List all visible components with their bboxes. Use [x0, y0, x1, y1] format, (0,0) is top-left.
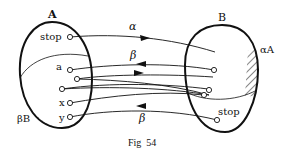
region-label-beta-b: βB — [17, 113, 30, 124]
arrow-beta-bottom-icon — [136, 103, 146, 109]
arrow-label-beta-top: β — [129, 49, 136, 62]
point-a-stop — [67, 34, 72, 39]
arrow-label-beta-bottom: β — [138, 112, 145, 125]
mapping-lines — [62, 36, 217, 120]
figure-caption: Fig 54 — [128, 137, 156, 148]
point-b-1 — [211, 67, 216, 72]
point-b-2 — [206, 87, 211, 92]
point-label-x: x — [59, 97, 65, 108]
region-label-alpha-a: αA — [260, 44, 275, 55]
point-a-x — [67, 100, 72, 105]
point-label-a-stop: stop — [40, 31, 62, 42]
arrow-label-alpha: α — [129, 20, 137, 33]
set-a-inner-curve — [20, 54, 88, 78]
point-label-a: a — [56, 61, 62, 72]
point-a-unlabeled-1 — [74, 76, 79, 81]
point-label-b-stop: stop — [218, 106, 240, 117]
point-label-y: y — [58, 112, 65, 123]
shaded-region-alpha-a — [245, 50, 262, 96]
point-b-stop — [214, 117, 219, 122]
arrowheads — [134, 35, 150, 109]
point-b-3 — [201, 92, 206, 97]
point-a-a — [67, 67, 72, 72]
set-b-label: B — [218, 11, 226, 24]
set-a-label: A — [47, 8, 57, 21]
arrow-beta-top-icon — [136, 61, 146, 67]
point-a-unlabeled-2 — [59, 86, 64, 91]
arrow-alpha-icon — [140, 35, 150, 41]
figure-diagram: A B stop a x y stop βB αA α β β Fig 54 — [0, 0, 288, 150]
point-a-y — [67, 114, 72, 119]
